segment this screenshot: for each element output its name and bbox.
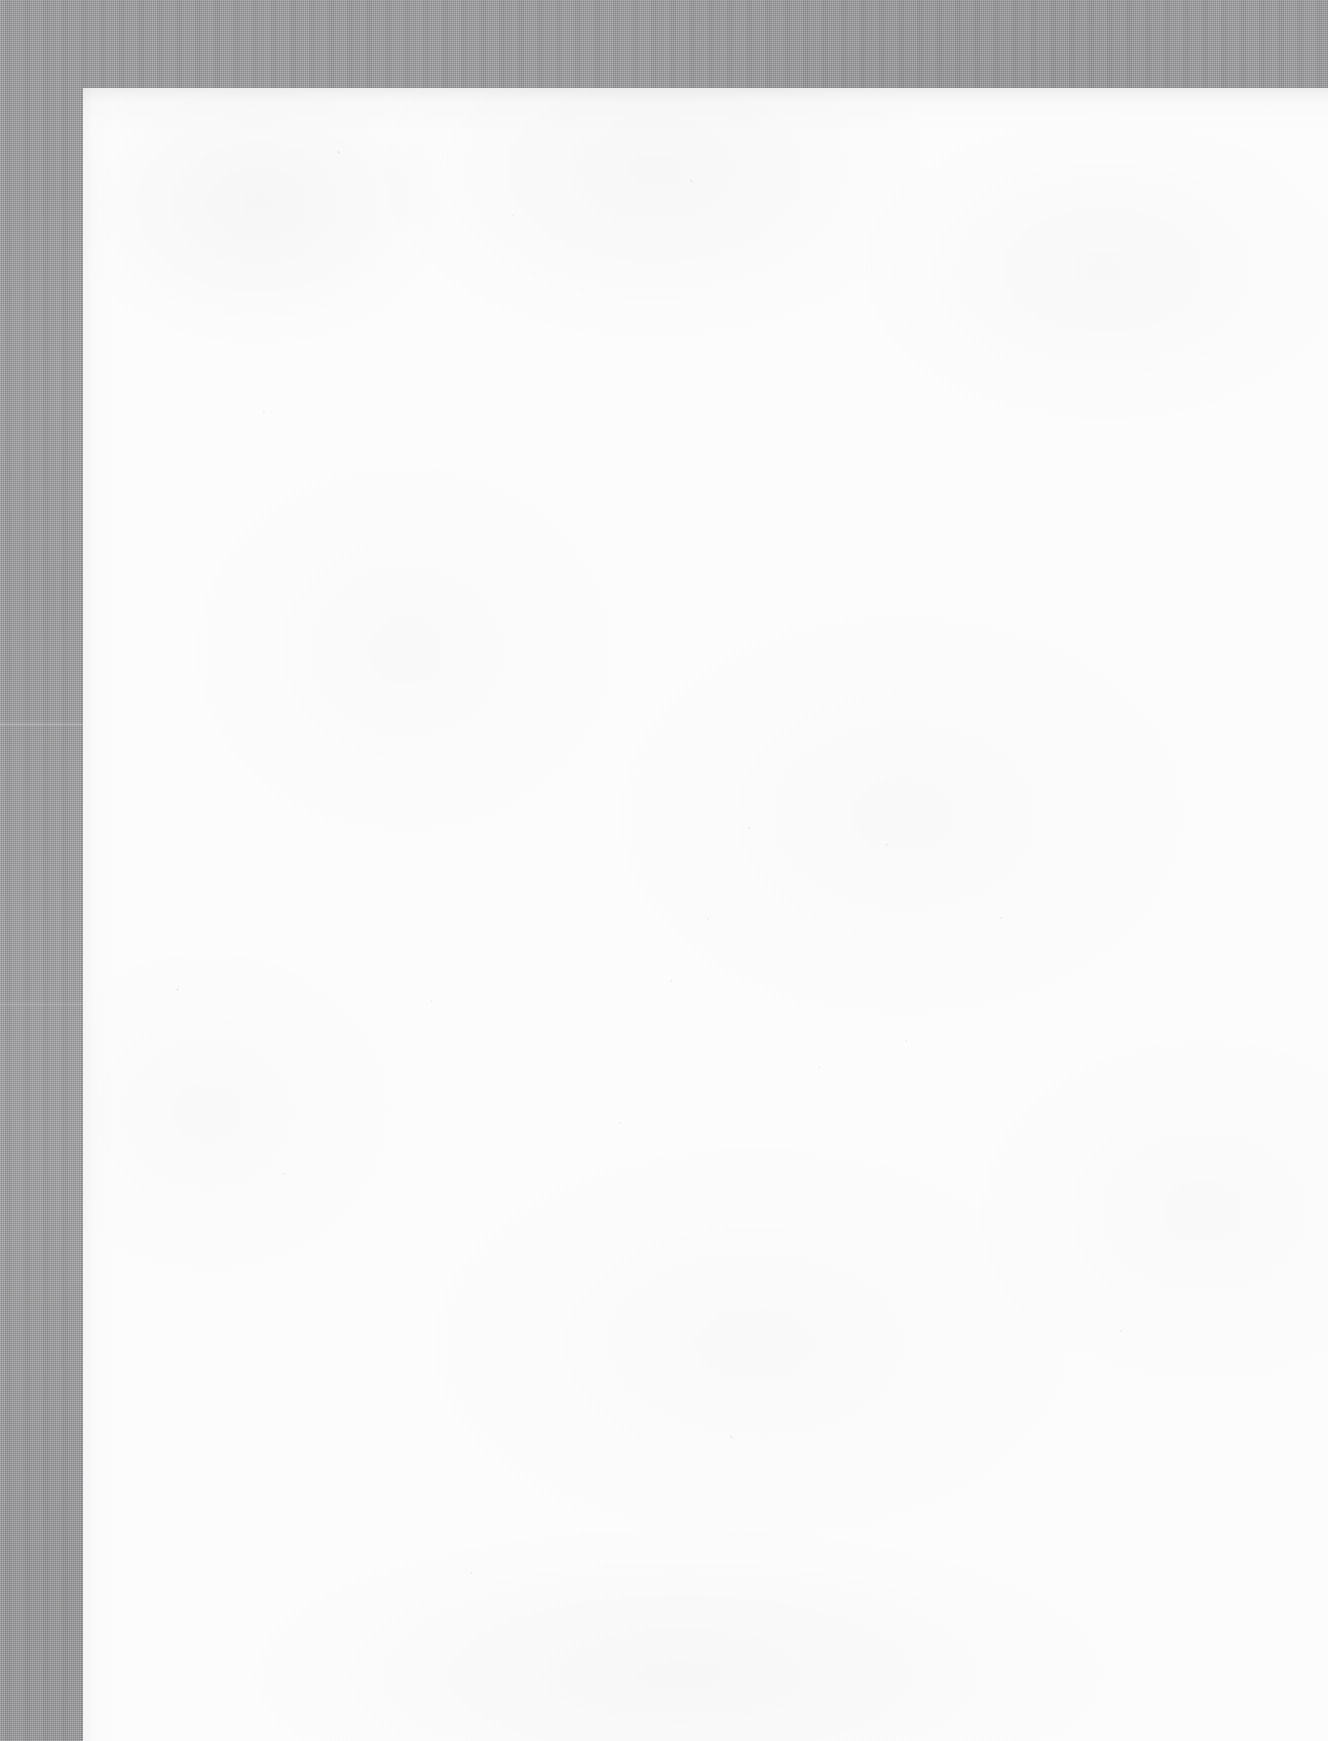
- scanned-document-frame: [0, 0, 1328, 1741]
- page-text-body: [83, 88, 1328, 1741]
- scanned-paper-sheet: [83, 88, 1328, 1741]
